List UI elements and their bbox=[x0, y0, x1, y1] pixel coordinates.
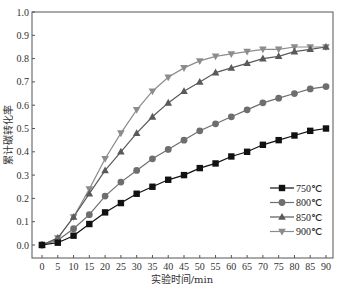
data-point-800 bbox=[133, 167, 140, 174]
line-chart: 0.00.10.20.30.40.50.60.70.80.91.0 051015… bbox=[0, 0, 341, 291]
x-tick-label: 60 bbox=[226, 261, 236, 272]
x-tick-label: 80 bbox=[289, 261, 299, 272]
legend-label: 800℃ bbox=[296, 197, 322, 208]
x-tick-label: 25 bbox=[116, 261, 126, 272]
x-tick-label: 15 bbox=[84, 261, 94, 272]
data-point-750 bbox=[70, 232, 76, 238]
series-750 bbox=[39, 125, 329, 248]
series-line-800 bbox=[42, 87, 326, 245]
legend-item-850: 850℃ bbox=[270, 212, 322, 223]
x-tick-label: 45 bbox=[179, 261, 189, 272]
y-tick-label: 0.5 bbox=[17, 123, 30, 134]
x-tick-label: 40 bbox=[163, 261, 173, 272]
data-point-800 bbox=[86, 211, 93, 218]
legend-marker bbox=[279, 185, 285, 191]
series-900 bbox=[38, 44, 330, 249]
series-line-900 bbox=[42, 47, 326, 245]
data-point-750 bbox=[102, 209, 108, 215]
legend-label: 900℃ bbox=[296, 226, 322, 237]
legend: 750℃800℃850℃900℃ bbox=[270, 183, 322, 238]
plot-frame bbox=[32, 12, 333, 258]
y-tick-label: 0.9 bbox=[17, 30, 30, 41]
data-point-750 bbox=[118, 200, 124, 206]
y-tick-label: 1.0 bbox=[17, 7, 30, 18]
data-point-800 bbox=[181, 137, 188, 144]
y-tick-label: 0.4 bbox=[17, 146, 30, 157]
x-tick-label: 20 bbox=[100, 261, 110, 272]
data-point-750 bbox=[197, 165, 203, 171]
data-point-900 bbox=[101, 156, 109, 163]
x-tick-label: 10 bbox=[69, 261, 79, 272]
data-point-900 bbox=[180, 65, 188, 72]
x-tick-label: 55 bbox=[211, 261, 221, 272]
legend-item-900: 900℃ bbox=[270, 226, 322, 237]
data-point-800 bbox=[70, 225, 77, 232]
y-tick-label: 0.2 bbox=[17, 193, 30, 204]
data-point-800 bbox=[149, 155, 156, 162]
data-point-750 bbox=[228, 153, 234, 159]
legend-marker bbox=[279, 199, 286, 206]
data-point-750 bbox=[133, 191, 139, 197]
data-point-750 bbox=[275, 137, 281, 143]
legend-item-750: 750℃ bbox=[270, 183, 322, 194]
data-point-750 bbox=[291, 132, 297, 138]
legend-item-800: 800℃ bbox=[270, 197, 322, 208]
series-line-850 bbox=[42, 47, 326, 245]
x-tick-label: 90 bbox=[321, 261, 331, 272]
data-point-800 bbox=[196, 127, 203, 134]
data-point-800 bbox=[228, 113, 235, 120]
data-point-800 bbox=[307, 85, 314, 92]
data-point-750 bbox=[212, 160, 218, 166]
legend-marker bbox=[278, 229, 286, 236]
y-axis-title: 累计碳转化率 bbox=[2, 105, 14, 165]
data-point-800 bbox=[117, 179, 124, 186]
data-point-750 bbox=[39, 242, 45, 248]
data-point-750 bbox=[165, 177, 171, 183]
x-tick-label: 30 bbox=[132, 261, 142, 272]
y-tick-label: 0.7 bbox=[17, 76, 30, 87]
data-point-750 bbox=[149, 184, 155, 190]
x-tick-label: 0 bbox=[40, 261, 45, 272]
legend-label: 850℃ bbox=[296, 212, 322, 223]
data-point-750 bbox=[323, 125, 329, 131]
data-point-800 bbox=[212, 120, 219, 127]
data-point-900 bbox=[117, 130, 125, 137]
data-point-850 bbox=[196, 78, 204, 85]
data-point-800 bbox=[165, 146, 172, 153]
data-point-800 bbox=[244, 106, 251, 113]
y-tick-label: 0.1 bbox=[17, 216, 30, 227]
data-point-850 bbox=[164, 99, 172, 106]
series-layer bbox=[38, 43, 330, 249]
data-point-750 bbox=[86, 221, 92, 227]
data-point-750 bbox=[307, 128, 313, 134]
x-tick-label: 70 bbox=[258, 261, 268, 272]
data-point-750 bbox=[55, 239, 61, 245]
x-tick-label: 50 bbox=[195, 261, 205, 272]
x-tick-label: 75 bbox=[274, 261, 284, 272]
y-tick-label: 0.0 bbox=[17, 240, 30, 251]
data-point-850 bbox=[180, 87, 188, 94]
x-tick-label: 5 bbox=[55, 261, 60, 272]
data-point-800 bbox=[291, 90, 298, 97]
data-point-800 bbox=[102, 193, 109, 200]
data-point-800 bbox=[275, 95, 282, 102]
y-tick-label: 0.8 bbox=[17, 53, 30, 64]
x-tick-label: 65 bbox=[242, 261, 252, 272]
series-800 bbox=[39, 83, 330, 248]
data-point-750 bbox=[260, 142, 266, 148]
x-tick-label: 85 bbox=[305, 261, 315, 272]
data-point-850 bbox=[322, 43, 330, 50]
x-axis-title: 实验时间/min bbox=[151, 273, 214, 285]
y-tick-label: 0.6 bbox=[17, 100, 30, 111]
legend-label: 750℃ bbox=[296, 183, 322, 194]
data-point-800 bbox=[323, 83, 330, 90]
data-point-800 bbox=[259, 99, 266, 106]
y-tick-label: 0.3 bbox=[17, 170, 30, 181]
data-point-750 bbox=[181, 172, 187, 178]
data-point-750 bbox=[244, 149, 250, 155]
x-tick-label: 35 bbox=[147, 261, 157, 272]
